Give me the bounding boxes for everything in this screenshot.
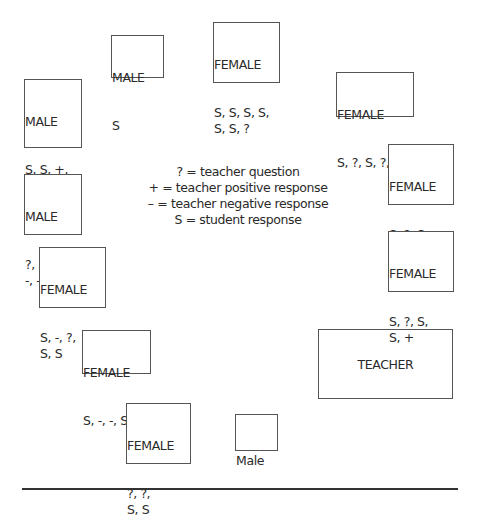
seat-female-bottom-left: FEMALE S, -, -, S — [82, 330, 151, 374]
seat-interaction-codes: S — [112, 118, 163, 134]
seat-gender-label: FEMALE — [389, 179, 453, 195]
seat-gender-label: FEMALE — [337, 107, 413, 123]
seat-female-right-upper: FEMALE S, ?, S, S, + — [388, 144, 454, 205]
legend-item-positive: + = teacher positive response — [138, 180, 338, 196]
seat-male-left-middle: MALE ?, ?, -, -, -, ? — [24, 174, 82, 235]
seat-female-top: FEMALE S, S, S, S, S, S, ? — [213, 22, 280, 83]
legend-item-student: S = student response — [138, 212, 338, 228]
seat-male-bottom: Male — [235, 414, 278, 451]
seat-female-top-right: FEMALE S, ?, S, ?, + — [336, 72, 414, 117]
seat-interaction-codes: ?, ?, S, S — [127, 486, 190, 518]
seat-gender-label: MALE — [112, 70, 163, 86]
seat-gender-label: FEMALE — [214, 57, 279, 73]
seat-female-bottom: FEMALE ?, ?, S, S — [126, 403, 191, 464]
seat-gender-label: FEMALE — [389, 266, 453, 282]
seat-gender-label: MALE — [25, 114, 81, 130]
seat-gender-label: FEMALE — [83, 365, 150, 381]
seat-female-left-lower: FEMALE S, -, ?, S, S — [39, 247, 106, 308]
seat-gender-label: Male — [236, 453, 277, 469]
seat-male-left-upper: MALE S, S, +, ?, S, +, ?, +, + — [24, 79, 82, 148]
legend: ? = teacher question + = teacher positiv… — [138, 164, 338, 228]
teacher-desk: TEACHER — [318, 329, 453, 399]
seat-gender-label: MALE — [25, 209, 81, 225]
seat-female-right-lower: FEMALE S, ?, S, S, + — [388, 231, 454, 292]
teacher-label: TEACHER — [358, 357, 414, 372]
seat-gender-label: FEMALE — [127, 438, 190, 454]
seat-gender-label: FEMALE — [40, 282, 105, 298]
seat-interaction-codes: S, S, S, S, S, S, ? — [214, 105, 279, 137]
legend-item-question: ? = teacher question — [138, 164, 338, 180]
legend-item-negative: – = teacher negative response — [138, 196, 338, 212]
bottom-divider — [22, 488, 458, 490]
seat-male-top: MALE S — [111, 35, 164, 78]
